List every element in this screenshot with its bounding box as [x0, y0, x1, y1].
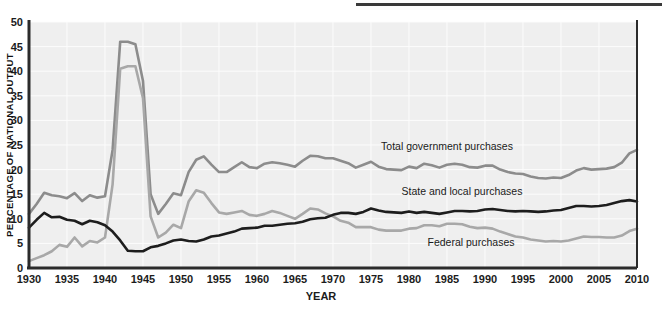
government-purchases-line-chart: 0510152025303540455019301935194019451950…	[0, 0, 664, 309]
y-tick-label: 50	[11, 16, 23, 28]
x-tick-label: 2005	[587, 273, 611, 285]
x-tick-label: 1930	[17, 273, 41, 285]
y-axis-title: PERCENTAGE OF NATIONAL OUTPUT	[4, 53, 15, 237]
x-tick-label: 1940	[93, 273, 117, 285]
y-tick-label: 5	[17, 237, 23, 249]
x-tick-label: 1980	[397, 273, 421, 285]
x-tick-label: 1955	[207, 273, 231, 285]
series-annotation-state-and-local: State and local purchases	[402, 185, 523, 197]
y-tick-label: 45	[11, 41, 23, 53]
x-tick-label: 1965	[283, 273, 307, 285]
x-tick-label: 1975	[359, 273, 383, 285]
figure-container: 0510152025303540455019301935194019451950…	[0, 0, 664, 309]
x-tick-label: 1945	[131, 273, 155, 285]
series-annotation-total-government: Total government purchases	[381, 140, 513, 152]
x-tick-label: 1960	[245, 273, 269, 285]
series-annotation-federal: Federal purchases	[428, 236, 515, 248]
x-tick-labels: 1930193519401945195019551960196519701975…	[17, 273, 649, 285]
x-tick-label: 1970	[321, 273, 345, 285]
chart-svg-wrapper: 0510152025303540455019301935194019451950…	[0, 0, 664, 309]
x-tick-label: 2000	[549, 273, 573, 285]
x-tick-label: 1990	[473, 273, 497, 285]
x-tick-label: 1995	[511, 273, 535, 285]
x-tick-label: 1985	[435, 273, 459, 285]
x-tick-label: 2010	[625, 273, 649, 285]
x-tick-label: 1935	[55, 273, 79, 285]
x-tick-label: 1950	[169, 273, 193, 285]
x-axis-title: YEAR	[306, 290, 337, 302]
